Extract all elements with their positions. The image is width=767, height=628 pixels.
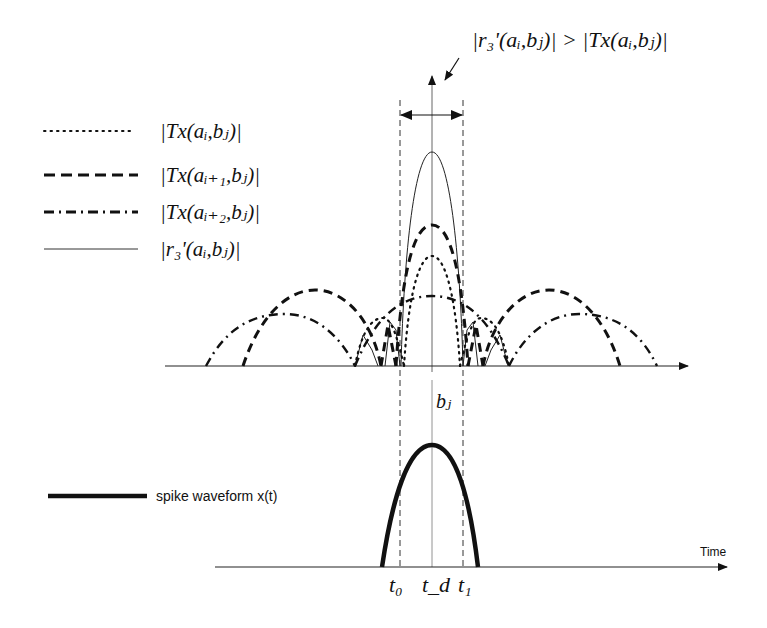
bottom-tick-labels: t₀ t_d t₁: [389, 572, 472, 597]
legend-item-dotted: |Tx(aᵢ,bⱼ)|: [44, 119, 242, 143]
wavelet-spike-diagram: |r₃'(aᵢ,bⱼ)| > |Tx(aᵢ,bⱼ)|: [0, 0, 767, 628]
spike-legend-label: spike waveform x(t): [156, 488, 277, 504]
bj-label: bⱼ: [436, 390, 452, 412]
legend-label-solid: |r₃'(aᵢ,bⱼ)|: [160, 237, 241, 261]
legend-item-solid: |r₃'(aᵢ,bⱼ)|: [44, 237, 241, 261]
legend-label-dash-dot: |Tx(aᵢ₊₂,bⱼ)|: [160, 200, 260, 224]
curve-tx-ai2: [206, 296, 657, 366]
legend-item-dash-dot: |Tx(aᵢ₊₂,bⱼ)|: [44, 200, 260, 224]
tick-t1: t₁: [458, 572, 472, 597]
time-axis-label: Time: [700, 545, 727, 559]
legend: |Tx(aᵢ,bⱼ)| |Tx(aᵢ₊₁,bⱼ)| |Tx(aᵢ₊₂,bⱼ)| …: [44, 119, 260, 261]
legend-label-dashed: |Tx(aᵢ₊₁,bⱼ)|: [160, 163, 260, 187]
inequality-annotation: |r₃'(aᵢ,bⱼ)| > |Tx(aᵢ,bⱼ)|: [445, 27, 668, 80]
tick-t0: t₀: [389, 572, 403, 597]
spike-waveform-curve: [382, 445, 478, 567]
tick-td: t_d: [422, 572, 451, 597]
spike-legend: spike waveform x(t): [48, 488, 277, 504]
legend-item-dashed: |Tx(aᵢ₊₁,bⱼ)|: [44, 163, 260, 187]
curve-r3-prime: [355, 152, 508, 366]
legend-label-dotted: |Tx(aᵢ,bⱼ)|: [160, 119, 242, 143]
annotation-pointer-arrow: [445, 58, 459, 80]
inequality-text: |r₃'(aᵢ,bⱼ)| > |Tx(aᵢ,bⱼ)|: [472, 27, 668, 52]
